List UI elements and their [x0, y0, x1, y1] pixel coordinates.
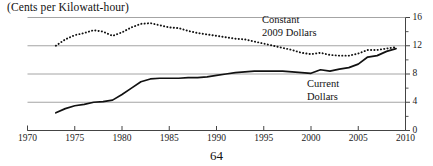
x-tick-label-2010: 2010	[388, 133, 424, 143]
y-tick-label-8: 8	[413, 68, 418, 78]
series-line-constant-2009-dollars	[56, 23, 396, 55]
x-tick-label-2005: 2005	[340, 133, 376, 143]
y-tick-label-0: 0	[413, 125, 418, 135]
y-tick-label-4: 4	[413, 96, 418, 106]
x-tick-label-2000: 2000	[293, 133, 329, 143]
page-number: 64	[0, 148, 433, 164]
current-dollars-annotation-line-2: Dollars	[307, 91, 339, 104]
constant-dollars-annotation: Constant2009 Dollars	[262, 14, 317, 39]
x-tick-label-1995: 1995	[246, 133, 282, 143]
y-tick-label-12: 12	[413, 40, 423, 50]
constant-dollars-annotation-line-2: 2009 Dollars	[262, 27, 317, 40]
x-tick-label-1985: 1985	[151, 133, 187, 143]
x-tick-label-1980: 1980	[104, 133, 140, 143]
current-dollars-annotation-line-1: Current	[307, 78, 339, 91]
current-dollars-annotation: CurrentDollars	[307, 78, 339, 103]
electricity-price-chart: (Cents per Kilowatt-hour) 64 19701975198…	[0, 0, 433, 166]
x-tick-label-1970: 1970	[10, 133, 46, 143]
y-tick-label-16: 16	[413, 12, 423, 22]
constant-dollars-annotation-line-1: Constant	[262, 14, 317, 27]
x-tick-label-1975: 1975	[57, 133, 93, 143]
series-line-current-dollars	[56, 49, 396, 113]
x-tick-label-1990: 1990	[199, 133, 235, 143]
